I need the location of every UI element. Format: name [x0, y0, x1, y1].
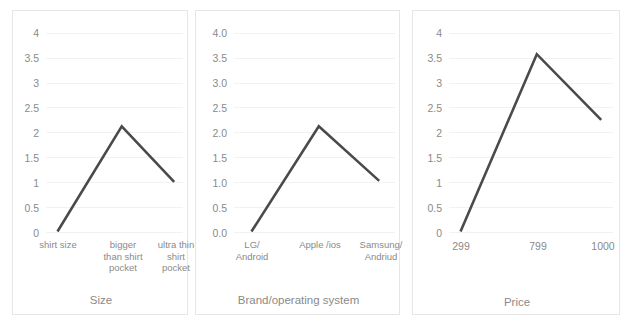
x-axis-tick-line: Apple /ios — [291, 239, 349, 251]
x-axis-tick-label: 799 — [510, 241, 566, 253]
x-axis-tick-line: Android — [223, 251, 281, 263]
y-axis-tick-label: 1 — [436, 178, 442, 189]
data-series-line — [461, 54, 602, 231]
x-axis-title-size: Size — [13, 294, 189, 306]
x-axis-tick-label: LG/Android — [223, 239, 281, 262]
y-axis-tick-label: 3 — [436, 78, 442, 89]
y-axis-tick-label: 2.5 — [24, 103, 39, 114]
chart-panels-container: 43.532.521.510.50 shirt sizebiggerthan s… — [0, 0, 627, 327]
y-axis-tick-label: 3.5 — [212, 53, 227, 64]
y-axis-tick-label: 3.5 — [24, 53, 39, 64]
x-axis-tick-label: Samsung/Andriud — [352, 239, 410, 262]
x-axis-tick-line: Samsung/ — [352, 239, 410, 251]
x-axis-title-price: Price — [413, 296, 621, 308]
y-axis-tick-label: 0.0 — [212, 228, 227, 239]
y-axis-tick-label: 2.5 — [212, 103, 227, 114]
y-axis-tick-label: 2 — [436, 128, 442, 139]
x-axis-tick-line: LG/ — [223, 239, 281, 251]
y-axis-tick-label: 0 — [33, 228, 39, 239]
y-axis-tick-label: 1.5 — [212, 153, 227, 164]
x-axis-tick-line: bigger — [97, 239, 149, 251]
y-axis-tick-label: 0.5 — [212, 203, 227, 214]
x-axis-tick-line: than shirt — [97, 251, 149, 263]
y-axis-tick-label: 3.0 — [212, 78, 227, 89]
y-axis-tick-label: 4 — [436, 28, 442, 39]
x-axis-tick-line: Andriud — [352, 251, 410, 263]
x-axis-tick-line: 299 — [433, 241, 489, 253]
line-chart-svg-price — [413, 11, 619, 314]
chart-panel-size: 43.532.521.510.50 shirt sizebiggerthan s… — [12, 10, 188, 315]
plot-area-brand: 4.03.53.02.52.01.51.00.50.0 LG/AndroidAp… — [196, 11, 399, 314]
y-axis-tick-label: 0.5 — [427, 203, 442, 214]
x-axis-title-brand: Brand/operating system — [196, 294, 401, 306]
plot-area-size: 43.532.521.510.50 shirt sizebiggerthan s… — [13, 11, 187, 314]
y-axis-tick-label: 1.0 — [212, 178, 227, 189]
y-axis-tick-label: 4 — [33, 28, 39, 39]
y-axis-tick-label: 3.5 — [427, 53, 442, 64]
x-axis-tick-label: 1000 — [575, 241, 627, 253]
chart-panel-price: 43.532.521.510.50 2997991000 Price — [412, 10, 620, 315]
y-axis-tick-label: 1 — [33, 178, 39, 189]
x-axis-tick-line: shirt size — [32, 239, 84, 251]
x-axis-tick-label: 299 — [433, 241, 489, 253]
data-series-line — [251, 126, 379, 231]
data-series-line — [57, 126, 174, 231]
y-axis-tick-label: 4.0 — [212, 28, 227, 39]
y-axis-tick-label: 0.5 — [24, 203, 39, 214]
x-axis-tick-label: biggerthan shirtpocket — [97, 239, 149, 274]
plot-area-price: 43.532.521.510.50 2997991000 Price — [413, 11, 619, 314]
x-axis-tick-line: 1000 — [575, 241, 627, 253]
y-axis-tick-label: 3 — [33, 78, 39, 89]
x-axis-tick-label: shirt size — [32, 239, 84, 251]
y-axis-tick-label: 2.5 — [427, 103, 442, 114]
y-axis-tick-label: 2 — [33, 128, 39, 139]
y-axis-tick-label: 0 — [436, 228, 442, 239]
y-axis-tick-label: 2.0 — [212, 128, 227, 139]
y-axis-tick-label: 1.5 — [427, 153, 442, 164]
chart-panel-brand: 4.03.53.02.52.01.51.00.50.0 LG/AndroidAp… — [195, 10, 400, 315]
x-axis-tick-line: pocket — [97, 262, 149, 274]
x-axis-tick-line: 799 — [510, 241, 566, 253]
x-axis-tick-label: Apple /ios — [291, 239, 349, 251]
y-axis-tick-label: 1.5 — [24, 153, 39, 164]
